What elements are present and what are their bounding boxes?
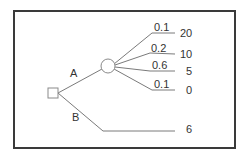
outcome-1-probability: 0.1	[154, 21, 169, 33]
branch-b-payoff: 6	[186, 123, 192, 135]
outcome-1-payoff: 20	[180, 27, 192, 39]
outcome-2-probability: 0.2	[151, 42, 166, 54]
outcome-2-payoff: 10	[180, 48, 192, 60]
outcome-3-probability: 0.6	[152, 59, 167, 71]
branch-b-label: B	[72, 111, 79, 123]
outcome-3-payoff: 5	[186, 65, 192, 77]
outcome-4-payoff: 0	[186, 84, 192, 96]
chance-node-circle	[101, 59, 115, 73]
decision-tree-diagram: A B 6 0.1 0.2 0.6 0.1 20 10 5 0	[0, 0, 246, 154]
outcome-4-probability: 0.1	[154, 78, 169, 90]
diagram-frame	[14, 11, 235, 148]
branch-a-edge	[58, 69, 102, 93]
decision-node-square	[48, 88, 58, 98]
branch-a-label: A	[70, 67, 78, 79]
